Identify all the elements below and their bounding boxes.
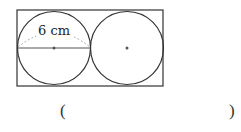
right-center-dot [126, 47, 129, 50]
geometry-figure: 6 cm [0, 0, 241, 100]
answer-open-paren: ( [60, 102, 66, 119]
answer-close-paren: ) [229, 102, 235, 119]
diameter-label: 6 cm [38, 23, 70, 38]
left-center-dot [53, 47, 56, 50]
